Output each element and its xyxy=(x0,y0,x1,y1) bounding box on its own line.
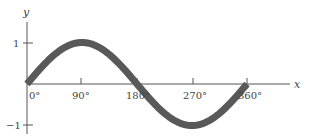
sine-chart: y x 1 −1 0° 90° 180° 270° 360° xyxy=(0,0,313,139)
y-tick-label-neg1: −1 xyxy=(6,120,21,131)
x-tick-label-270: 270° xyxy=(183,90,207,101)
x-tick-label-0: 0° xyxy=(29,90,40,101)
x-tick-label-180: 180° xyxy=(126,90,150,101)
x-axis-label: x xyxy=(294,78,301,91)
x-tick-label-90: 90° xyxy=(72,90,90,101)
y-tick-label-1: 1 xyxy=(13,38,19,49)
x-tick-label-360: 360° xyxy=(238,90,262,101)
y-axis-label: y xyxy=(22,6,30,19)
